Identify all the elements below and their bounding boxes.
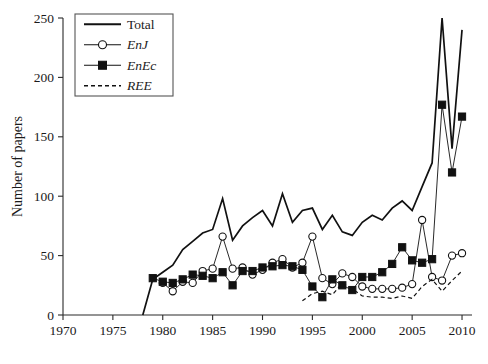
legend-marker-square [99, 61, 107, 69]
x-tick-label: 1985 [199, 323, 226, 338]
data-point-marker [359, 273, 366, 280]
chart-container: 050100150200250 197019751980198519901995… [0, 0, 488, 364]
x-tick-label: 1975 [99, 323, 126, 338]
data-point-marker [448, 169, 455, 176]
data-point-marker [359, 283, 366, 290]
data-point-marker [339, 270, 346, 277]
y-tick-label: 100 [34, 189, 55, 204]
x-tick-label: 1990 [249, 323, 276, 338]
data-point-marker [409, 257, 416, 264]
legend-label-ree: REE [126, 78, 152, 93]
series-enec [149, 101, 465, 301]
data-point-marker [409, 281, 416, 288]
data-point-marker [319, 294, 326, 301]
data-point-marker [229, 265, 236, 272]
data-point-marker [219, 269, 226, 276]
x-tick-label: 2005 [399, 323, 426, 338]
data-point-marker [389, 285, 396, 292]
data-point-marker [169, 288, 176, 295]
data-point-marker [369, 285, 376, 292]
data-point-marker [149, 275, 156, 282]
data-point-marker [239, 267, 246, 274]
data-point-marker [249, 267, 256, 274]
data-point-marker [458, 113, 465, 120]
data-point-marker [269, 263, 276, 270]
data-point-marker [419, 216, 426, 223]
data-point-marker [329, 276, 336, 283]
data-point-marker [369, 273, 376, 280]
x-tick-label: 2010 [449, 323, 476, 338]
data-point-marker [159, 278, 166, 285]
data-point-marker [219, 233, 226, 240]
data-point-marker [458, 250, 465, 257]
data-point-marker [209, 275, 216, 282]
data-series-group [143, 18, 466, 315]
y-axis-ticks: 050100150200250 [34, 11, 63, 323]
data-point-marker [229, 282, 236, 289]
data-point-marker [389, 260, 396, 267]
data-point-marker [289, 263, 296, 270]
data-point-marker [399, 244, 406, 251]
data-point-marker [259, 264, 266, 271]
data-point-marker [379, 269, 386, 276]
legend-label-total: Total [127, 17, 155, 32]
legend-label-enj: EnJ [126, 37, 149, 52]
papers-per-year-line-chart: 050100150200250 197019751980198519901995… [0, 0, 488, 364]
data-point-marker [399, 284, 406, 291]
y-tick-label: 50 [41, 248, 55, 263]
data-point-marker [438, 101, 445, 108]
data-point-marker [319, 275, 326, 282]
y-tick-label: 200 [34, 70, 55, 85]
data-point-marker [299, 259, 306, 266]
x-axis-ticks: 197019751980198519901995200020052010 [50, 315, 476, 338]
data-point-marker [189, 279, 196, 286]
data-point-marker [309, 233, 316, 240]
data-point-marker [349, 273, 356, 280]
data-point-marker [279, 262, 286, 269]
legend-frame [75, 14, 173, 96]
x-tick-label: 1970 [50, 323, 77, 338]
x-tick-label: 2000 [349, 323, 376, 338]
legend-label-enec: EnEc [126, 58, 156, 73]
chart-legend: TotalEnJEnEcREE [75, 14, 173, 96]
legend-marker-circle [99, 41, 107, 49]
y-axis-title: Number of papers [10, 116, 25, 217]
data-point-marker [428, 256, 435, 263]
data-point-marker [169, 279, 176, 286]
data-point-marker [379, 285, 386, 292]
y-tick-label: 250 [34, 11, 55, 26]
data-point-marker [189, 271, 196, 278]
x-tick-label: 1980 [149, 323, 176, 338]
data-point-marker [448, 252, 455, 259]
data-point-marker [209, 265, 216, 272]
data-point-marker [299, 266, 306, 273]
data-point-marker [199, 272, 206, 279]
y-tick-label: 0 [47, 308, 54, 323]
data-point-marker [179, 276, 186, 283]
y-tick-label: 150 [34, 129, 55, 144]
data-point-marker [419, 259, 426, 266]
x-tick-label: 1995 [299, 323, 326, 338]
data-point-marker [438, 277, 445, 284]
data-point-marker [309, 283, 316, 290]
